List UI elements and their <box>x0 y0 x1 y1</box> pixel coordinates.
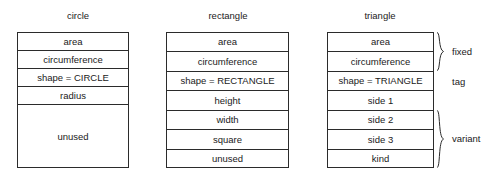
column-title-triangle: triangle <box>349 10 411 21</box>
field-cell: shape = CIRCLE <box>18 69 128 87</box>
group-label-variant: variant <box>452 133 481 144</box>
field-cell: unused <box>18 105 128 169</box>
group-label-fixed: fixed <box>452 46 472 57</box>
field-cell: area <box>167 33 288 52</box>
field-cell: height <box>167 91 288 110</box>
field-cell: shape = TRIANGLE <box>328 72 433 91</box>
field-cell: side 1 <box>328 91 433 110</box>
field-cell: width <box>167 111 288 130</box>
struct-table-rectangle: areacircumferenceshape = RECTANGLEheight… <box>166 32 289 168</box>
field-cell: kind <box>328 150 433 169</box>
field-cell: circumference <box>328 52 433 71</box>
group-label-tag: tag <box>452 76 465 87</box>
field-cell: square <box>167 130 288 149</box>
field-cell: circumference <box>167 52 288 71</box>
field-cell: radius <box>18 87 128 105</box>
field-cell: side 3 <box>328 130 433 149</box>
struct-layout-diagram: circleareacircumferenceshape = CIRCLErad… <box>0 0 493 176</box>
field-cell: side 2 <box>328 111 433 130</box>
brace-variant <box>436 110 445 168</box>
column-title-circle: circle <box>47 10 109 21</box>
struct-table-triangle: areacircumferenceshape = TRIANGLEside 1s… <box>327 32 434 168</box>
field-cell: circumference <box>18 51 128 69</box>
field-cell: unused <box>167 150 288 169</box>
field-cell: shape = RECTANGLE <box>167 72 288 91</box>
brace-fixed <box>436 32 445 71</box>
column-title-rectangle: rectangle <box>197 10 259 21</box>
field-cell: area <box>18 33 128 51</box>
field-cell: area <box>328 33 433 52</box>
struct-table-circle: areacircumferenceshape = CIRCLEradiusunu… <box>17 32 129 168</box>
